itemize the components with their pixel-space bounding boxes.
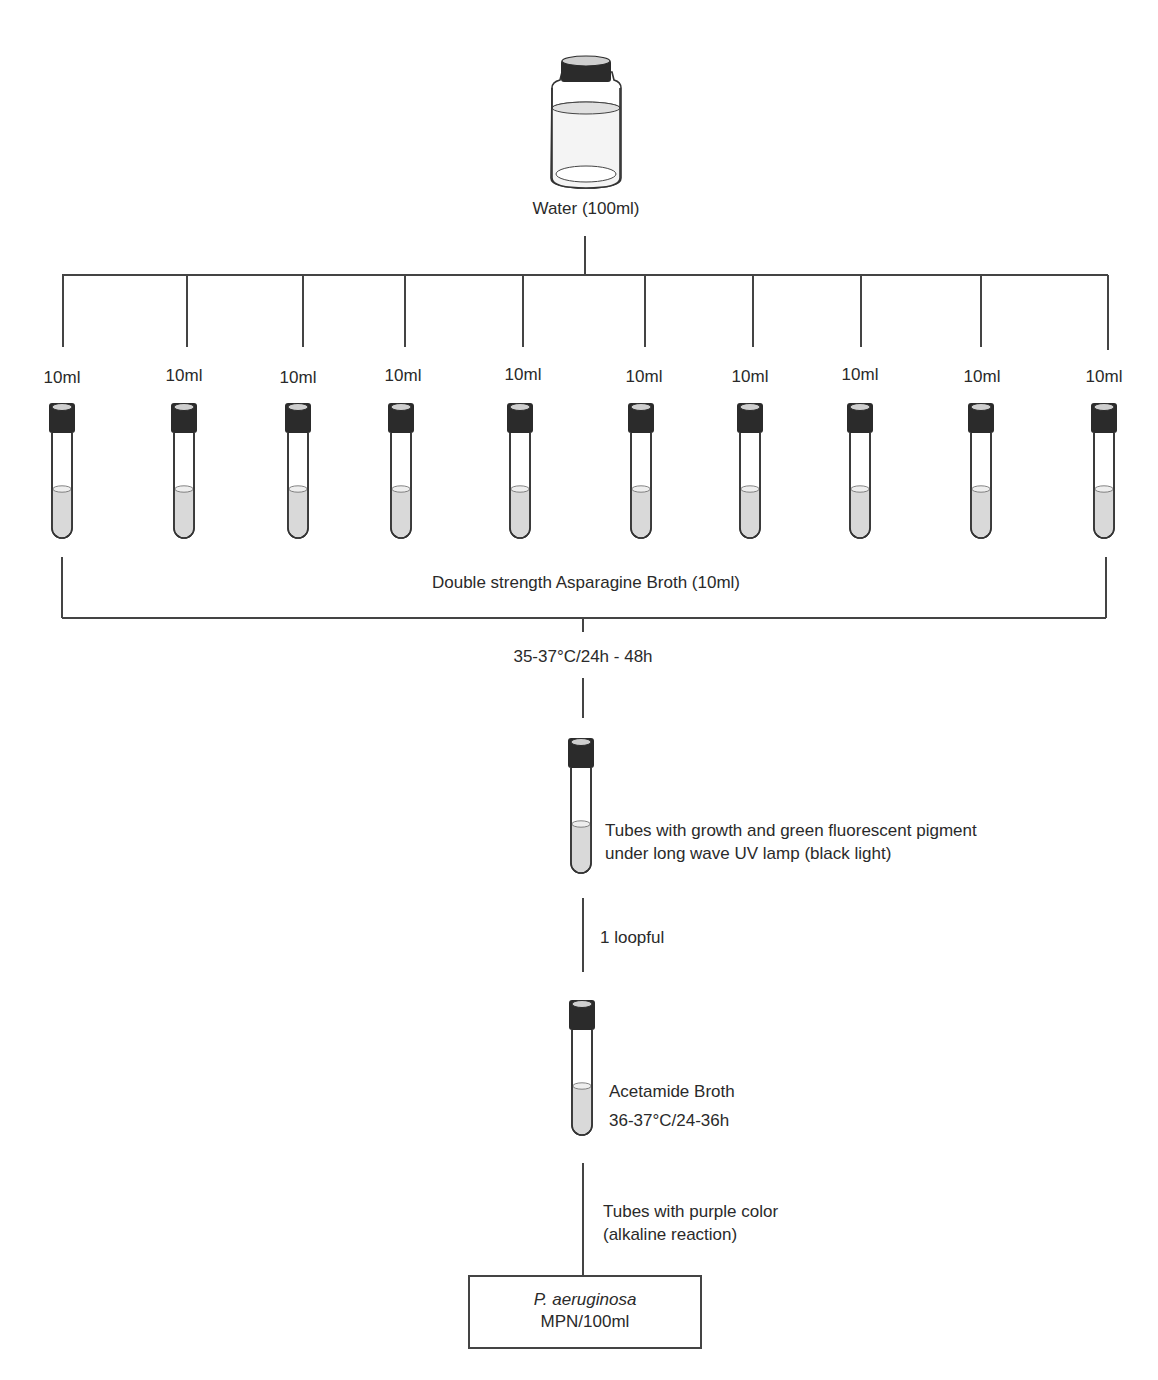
test-tube-row (49, 403, 1117, 538)
confirmation-criteria-line2: (alkaline reaction) (603, 1224, 737, 1246)
positive-asparagine-tube-icon (568, 738, 594, 873)
positive-criteria-line1: Tubes with growth and green fluorescent … (605, 820, 977, 842)
confirmation-medium-label: Acetamide Broth (609, 1081, 735, 1103)
positive-criteria-line2: under long wave UV lamp (black light) (605, 843, 891, 865)
aliquot-label: 10ml (44, 367, 81, 389)
aliquot-label: 10ml (166, 365, 203, 387)
aliquot-label: 10ml (842, 364, 879, 386)
aliquot-label: 10ml (385, 365, 422, 387)
aliquot-label: 10ml (1086, 366, 1123, 388)
result-box: P. aeruginosa MPN/100ml (468, 1275, 702, 1349)
acetamide-tube-icon (569, 1000, 595, 1135)
aliquot-label: 10ml (964, 366, 1001, 388)
aliquot-label: 10ml (505, 364, 542, 386)
transfer-label: 1 loopful (600, 927, 664, 949)
confirmation-incubation-label: 36-37°C/24-36h (609, 1110, 729, 1132)
aliquot-label: 10ml (280, 367, 317, 389)
result-species: P. aeruginosa (470, 1289, 700, 1311)
source-label: Water (100ml) (532, 198, 639, 220)
aliquot-label: 10ml (626, 366, 663, 388)
confirmation-criteria-line1: Tubes with purple color (603, 1201, 778, 1223)
result-unit: MPN/100ml (470, 1311, 700, 1333)
presumptive-medium-label: Double strength Asparagine Broth (10ml) (432, 572, 740, 594)
bottle-icon (551, 56, 621, 188)
aliquot-label: 10ml (732, 366, 769, 388)
presumptive-incubation-label: 35-37°C/24h - 48h (513, 646, 652, 668)
